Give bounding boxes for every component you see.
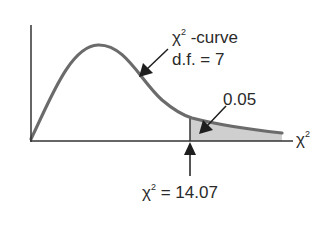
curve-name-label: χ2 -curve bbox=[172, 29, 238, 46]
x-axis-label: χ2 bbox=[296, 131, 310, 148]
tail-area-label: 0.05 bbox=[223, 91, 256, 108]
curve-pointer-arrow bbox=[139, 49, 168, 77]
critical-value-arrow bbox=[184, 142, 196, 176]
critical-value-label: χ2 = 14.07 bbox=[142, 184, 218, 201]
degrees-of-freedom-label: d.f. = 7 bbox=[172, 51, 224, 68]
